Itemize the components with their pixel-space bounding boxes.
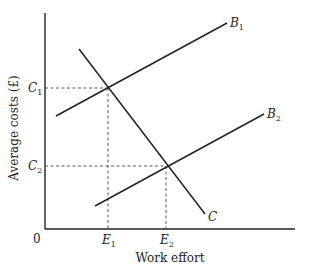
label-e1: E1 <box>101 233 116 249</box>
line-c <box>79 49 205 214</box>
label-b2: B2 <box>266 107 281 123</box>
label-b1: B1 <box>229 16 244 32</box>
label-c2: C2 <box>28 159 42 175</box>
label-c: C <box>208 210 217 224</box>
x-axis-title: Work effort <box>136 251 205 265</box>
line-b2 <box>95 114 264 206</box>
line-b1 <box>56 23 227 116</box>
label-e2: E2 <box>159 233 174 249</box>
label-c1: C1 <box>28 81 42 97</box>
origin-label: 0 <box>33 232 41 246</box>
y-axis-title: Average costs (£) <box>7 75 21 181</box>
work-effort-cost-diagram: B1 B2 C C1 C2 0 E1 E2 Work effort Averag… <box>0 0 309 274</box>
